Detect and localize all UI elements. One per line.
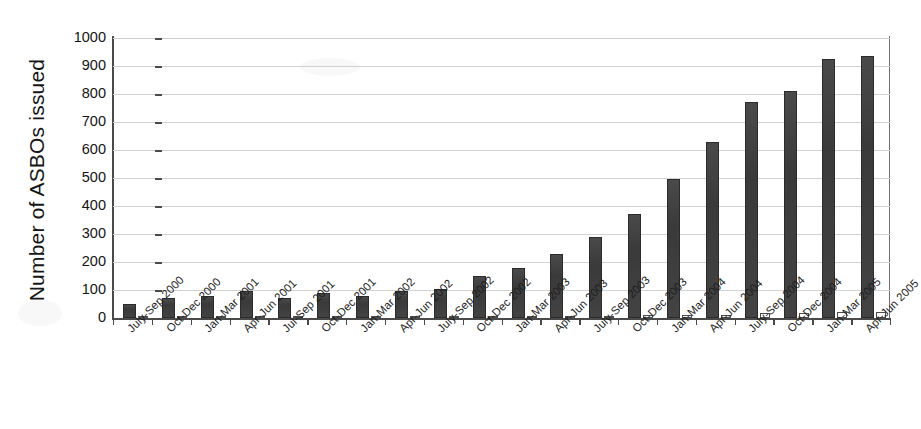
- y-tick-mark-0: [155, 318, 162, 320]
- bar-group: [540, 38, 579, 318]
- y-axis-ticks: 01002003004005006007008009001000: [48, 38, 106, 318]
- x-tick-mark: [657, 318, 658, 325]
- x-tick-mark: [618, 318, 619, 325]
- bar-group: [346, 38, 385, 318]
- y-tick-label-600: 600: [50, 141, 106, 157]
- bar-group: [579, 38, 618, 318]
- bars-layer: [113, 38, 890, 318]
- x-tick-mark: [735, 318, 736, 325]
- bar-group: [851, 38, 890, 318]
- x-tick-mark: [851, 318, 852, 325]
- y-tick-label-400: 400: [50, 197, 106, 213]
- y-tick-label-1000: 1000: [50, 29, 106, 45]
- bar-group: [191, 38, 230, 318]
- bar-group: [113, 38, 152, 318]
- x-tick-mark: [307, 318, 308, 325]
- bar-group: [618, 38, 657, 318]
- bar-group: [230, 38, 269, 318]
- bar-group: [696, 38, 735, 318]
- bar-group: [307, 38, 346, 318]
- bar-group: [424, 38, 463, 318]
- bar-group: [812, 38, 851, 318]
- x-tick-mark: [230, 318, 231, 325]
- x-tick-mark: [191, 318, 192, 325]
- x-tick-mark: [696, 318, 697, 325]
- y-tick-label-700: 700: [50, 113, 106, 129]
- x-tick-mark: [346, 318, 347, 325]
- x-tick-mark: [890, 318, 891, 325]
- x-tick-mark: [579, 318, 580, 325]
- y-tick-label-800: 800: [50, 85, 106, 101]
- x-tick-mark: [385, 318, 386, 325]
- x-tick-mark: [502, 318, 503, 325]
- x-axis-labels: July-Sep 2000Oct-Dec 2000Jan-Mar 2001Apr…: [113, 326, 903, 426]
- bar-group: [735, 38, 774, 318]
- bar-group: [657, 38, 696, 318]
- y-tick-label-500: 500: [50, 169, 106, 185]
- y-tick-label-0: 0: [50, 309, 106, 325]
- bar-group: [463, 38, 502, 318]
- x-tick-mark: [540, 318, 541, 325]
- y-tick-label-200: 200: [50, 253, 106, 269]
- x-tick-mark: [152, 318, 153, 325]
- y-tick-label-300: 300: [50, 225, 106, 241]
- x-tick-mark: [463, 318, 464, 325]
- bar-group: [152, 38, 191, 318]
- y-axis-title: Number of ASBOs issued: [25, 25, 49, 335]
- bar-group: [268, 38, 307, 318]
- y-tick-label-100: 100: [50, 281, 106, 297]
- x-tick-mark: [268, 318, 269, 325]
- x-tick-mark: [113, 318, 114, 325]
- y-tick-label-900: 900: [50, 57, 106, 73]
- bar-group: [502, 38, 541, 318]
- x-tick-mark: [424, 318, 425, 325]
- x-tick-mark: [812, 318, 813, 325]
- x-tick-mark: [773, 318, 774, 325]
- bar-group: [385, 38, 424, 318]
- bar-group: [773, 38, 812, 318]
